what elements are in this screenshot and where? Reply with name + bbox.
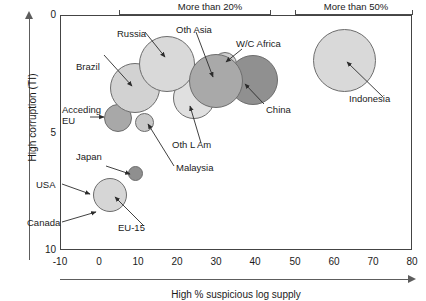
label-malaysia: Malaysia [176,162,214,173]
label-oth-asia: Oth Asia [176,24,212,35]
label-usa: USA [36,179,56,190]
label-russia: Russia [117,28,146,39]
label-canada: Canada [27,217,60,228]
label-brazil: Brazil [76,61,100,72]
label-acceding-eu-line2: EU [62,115,101,126]
label-china: China [266,104,291,115]
label-oth-l-am: Oth L Am [172,139,211,150]
annotation-leader-lines [0,0,426,301]
label-eu15: EU-15 [118,222,145,233]
bubble-chart-figure: High corruption (TI) High % suspicious l… [0,0,426,301]
label-wc-africa: W/C Africa [236,38,281,49]
label-acceding-eu-line1: Acceding [62,104,101,115]
label-indonesia: Indonesia [349,93,390,104]
label-japan: Japan [76,151,102,162]
